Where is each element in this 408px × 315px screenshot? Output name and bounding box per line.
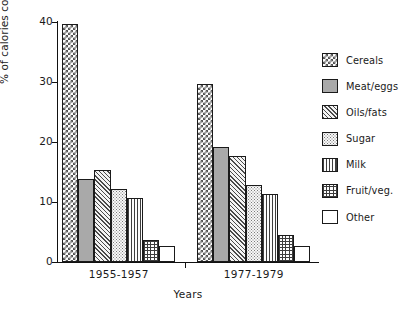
y-axis-tick-label: 10 xyxy=(39,195,53,208)
y-axis-tick-label: 30 xyxy=(39,75,53,88)
legend: CerealsMeat/eggsOils/fatsSugarMilkFruit/… xyxy=(322,52,408,235)
legend-item: Sugar xyxy=(322,131,408,147)
legend-label: Sugar xyxy=(346,133,375,144)
bar-chart: % of calories consumed Years 010203040 1… xyxy=(0,0,408,315)
legend-item: Meat/eggs xyxy=(322,78,408,94)
bar xyxy=(197,84,213,262)
bar xyxy=(246,185,262,262)
y-axis-tick-label: 0 xyxy=(46,255,53,268)
legend-label: Oils/fats xyxy=(346,107,387,118)
legend-label: Fruit/veg. xyxy=(346,185,393,196)
y-axis-tick-label: 40 xyxy=(39,15,53,28)
legend-label: Meat/eggs xyxy=(346,81,398,92)
legend-swatch xyxy=(322,210,338,224)
x-axis-separator-tick xyxy=(185,263,186,268)
legend-swatch xyxy=(322,53,338,67)
bar xyxy=(78,179,94,262)
legend-swatch xyxy=(322,184,338,198)
legend-label: Other xyxy=(346,212,374,223)
x-axis-title: Years xyxy=(57,288,319,300)
legend-swatch xyxy=(322,158,338,172)
x-axis-line xyxy=(57,262,319,263)
legend-label: Milk xyxy=(346,159,366,170)
x-axis-group-label: 1977-1979 xyxy=(194,268,314,280)
bar xyxy=(62,24,78,262)
legend-item: Other xyxy=(322,209,408,225)
y-axis-title: % of calories consumed xyxy=(0,0,10,84)
bar xyxy=(278,235,294,262)
bar xyxy=(262,194,278,262)
bar xyxy=(294,246,310,262)
y-axis-tick-label: 20 xyxy=(39,135,53,148)
legend-item: Cereals xyxy=(322,52,408,68)
bar xyxy=(111,189,127,262)
bar xyxy=(213,147,229,262)
legend-item: Oils/fats xyxy=(322,104,408,120)
bar xyxy=(143,240,159,262)
legend-item: Milk xyxy=(322,157,408,173)
plot-area: 010203040 xyxy=(57,22,319,262)
legend-swatch xyxy=(322,79,338,93)
legend-swatch xyxy=(322,105,338,119)
bar xyxy=(229,156,245,262)
legend-swatch xyxy=(322,132,338,146)
legend-label: Cereals xyxy=(346,55,383,66)
bar xyxy=(159,246,175,262)
legend-item: Fruit/veg. xyxy=(322,183,408,199)
bar xyxy=(127,198,143,262)
x-axis-group-label: 1955-1957 xyxy=(59,268,179,280)
bar xyxy=(94,170,110,262)
